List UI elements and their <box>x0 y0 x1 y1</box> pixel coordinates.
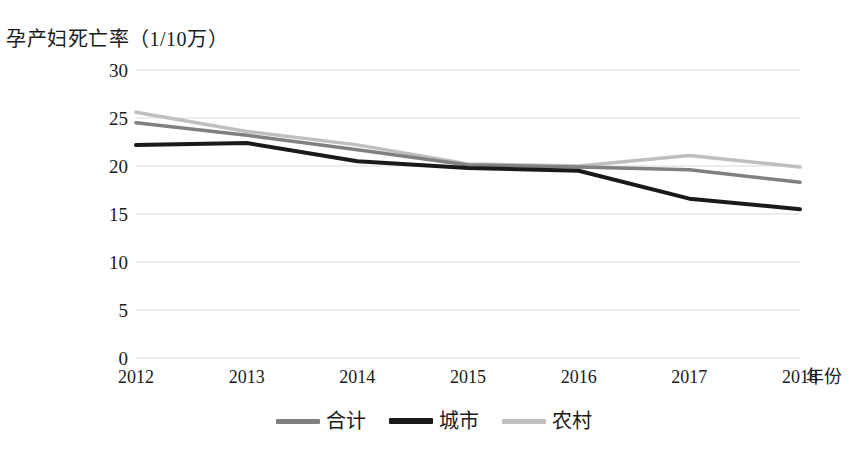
legend-label: 农村 <box>552 408 593 434</box>
y-tick-label: 25 <box>88 109 128 128</box>
plot-svg <box>136 70 800 358</box>
legend-label: 合计 <box>326 408 367 434</box>
legend-item-城市[interactable]: 城市 <box>389 408 480 434</box>
y-tick-label: 30 <box>88 61 128 80</box>
legend-label: 城市 <box>439 408 480 434</box>
legend-item-合计[interactable]: 合计 <box>276 408 367 434</box>
x-axis-tick-labels: 2012201320142015201620172018 <box>136 366 800 392</box>
y-tick-label: 0 <box>88 349 128 368</box>
x-tick-label-2017: 2017 <box>649 366 729 388</box>
plot-area <box>136 70 800 358</box>
series-line-城市 <box>136 143 800 209</box>
x-tick-label-2012: 2012 <box>96 366 176 388</box>
y-tick-label: 5 <box>88 301 128 320</box>
chart-legend: 合计城市农村 <box>0 408 868 434</box>
series-lines <box>136 112 800 209</box>
y-tick-label: 20 <box>88 157 128 176</box>
series-line-合计 <box>136 123 800 183</box>
legend-swatch-icon <box>389 418 433 424</box>
legend-swatch-icon <box>502 419 546 424</box>
x-tick-label-2016: 2016 <box>539 366 619 388</box>
x-tick-label-2015: 2015 <box>428 366 508 388</box>
legend-item-农村[interactable]: 农村 <box>502 408 593 434</box>
maternal-mortality-line-chart: 孕产妇死亡率（1/10万） 051015202530 2012201320142… <box>0 0 868 475</box>
legend-swatch-icon <box>276 419 320 424</box>
y-tick-label: 15 <box>88 205 128 224</box>
gridlines <box>136 70 800 358</box>
x-tick-label-2014: 2014 <box>317 366 397 388</box>
x-tick-label-2013: 2013 <box>207 366 287 388</box>
y-axis-title: 孕产妇死亡率（1/10万） <box>6 26 228 52</box>
y-axis-tick-labels: 051015202530 <box>78 70 128 358</box>
series-line-农村 <box>136 112 800 167</box>
x-axis-title: 年份 <box>806 366 842 388</box>
y-tick-label: 10 <box>88 253 128 272</box>
